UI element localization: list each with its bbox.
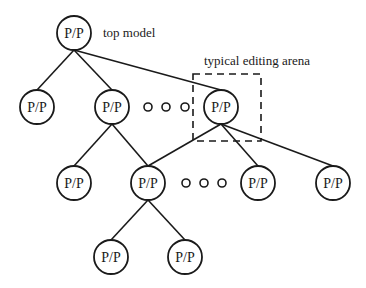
top-model-label: top model	[103, 25, 156, 40]
tree-node: P/P	[204, 90, 238, 124]
tree-node: P/P	[241, 166, 275, 200]
node-label: P/P	[323, 176, 343, 191]
tree-node: P/P	[131, 166, 165, 200]
edges-group	[37, 50, 333, 240]
edge	[111, 200, 148, 240]
node-label: P/P	[64, 176, 84, 191]
tree-node: P/P	[20, 90, 54, 124]
node-label: P/P	[138, 176, 158, 191]
ellipsis-dot	[200, 179, 208, 187]
edge	[148, 200, 185, 240]
edge	[112, 124, 148, 166]
ellipsis-dot	[144, 103, 152, 111]
tree-node: P/P	[316, 166, 350, 200]
ellipsis-dot	[181, 103, 189, 111]
node-label: P/P	[101, 250, 121, 265]
tree-node: P/P	[95, 90, 129, 124]
node-label: P/P	[211, 100, 231, 115]
ellipsis-dot	[182, 179, 190, 187]
editing-arena-label: typical editing arena	[204, 53, 310, 68]
tree-node: P/P	[57, 16, 91, 50]
tree-diagram: P/PP/PP/PP/PP/PP/PP/PP/PP/PP/P top model…	[0, 0, 366, 288]
ellipsis-dot	[218, 179, 226, 187]
node-label: P/P	[248, 176, 268, 191]
node-label: P/P	[175, 250, 195, 265]
edge	[74, 50, 112, 90]
diagram-canvas: P/PP/PP/PP/PP/PP/PP/PP/PP/PP/P top model…	[0, 0, 366, 288]
tree-node: P/P	[94, 240, 128, 274]
edge	[221, 124, 333, 166]
edge	[74, 50, 221, 90]
tree-node: P/P	[168, 240, 202, 274]
edge	[37, 50, 74, 90]
tree-node: P/P	[57, 166, 91, 200]
edge	[148, 124, 221, 166]
ellipsis-dot	[162, 103, 170, 111]
node-label: P/P	[27, 100, 47, 115]
edge	[74, 124, 112, 166]
node-label: P/P	[102, 100, 122, 115]
node-label: P/P	[64, 26, 84, 41]
